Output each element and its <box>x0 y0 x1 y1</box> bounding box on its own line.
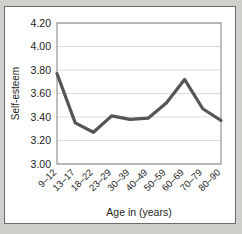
y-tick-label: 3.80 <box>31 64 52 76</box>
y-tick-label: 3.00 <box>31 158 52 170</box>
chart-svg: 3.003.203.403.603.804.004.20 9–1213–1718… <box>5 7 235 223</box>
x-axis-title: Age in (years) <box>106 206 171 218</box>
y-tick-label: 4.00 <box>31 40 52 52</box>
data-series-group <box>57 74 221 133</box>
y-tick-label: 3.20 <box>31 134 52 146</box>
y-tick-label: 3.60 <box>31 87 52 99</box>
data-line <box>57 74 221 133</box>
gridlines-group <box>57 23 221 164</box>
y-axis-title: Self-esteem <box>10 67 21 120</box>
line-chart: 3.003.203.403.603.804.004.20 9–1213–1718… <box>5 7 235 223</box>
ytick-labels-group: 3.003.203.403.603.804.004.20 <box>31 17 52 170</box>
xtick-labels-group: 9–1213–1718–2223–2930–3940–4950–5960–697… <box>36 167 223 193</box>
chart-card: 3.003.203.403.603.804.004.20 9–1213–1718… <box>4 6 236 224</box>
y-tick-label: 4.20 <box>31 17 52 29</box>
y-tick-label: 3.40 <box>31 111 52 123</box>
